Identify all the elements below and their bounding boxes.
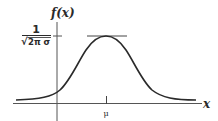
peak-value-label: 1 √ 2π σ	[21, 23, 51, 47]
peak-label-numerator: 1	[32, 23, 40, 36]
radical-sign: √	[21, 36, 28, 47]
normal-distribution-diagram: f(x) x 1 √ 2π σ μ	[0, 0, 218, 121]
mu-label: μ	[103, 109, 108, 118]
peak-label-denominator: 2π σ	[28, 37, 51, 47]
y-axis-label: f(x)	[50, 6, 75, 20]
x-axis-label: x	[202, 97, 211, 111]
